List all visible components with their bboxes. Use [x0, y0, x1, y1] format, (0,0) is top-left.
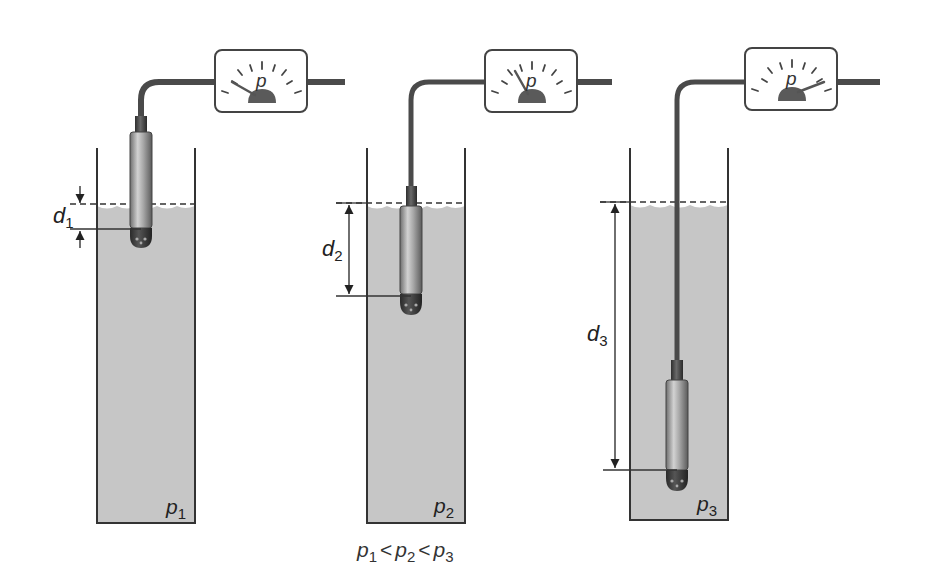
sensor-body-1	[130, 132, 152, 228]
pressure-depth-diagram: p p p d1 d2 d3 p1 p2 p3 p1<p2<p3	[0, 0, 942, 574]
liquid-1	[97, 206, 195, 523]
sensor-body-2	[400, 206, 422, 294]
depth-label-2: d2	[322, 238, 343, 263]
cable-1	[141, 82, 215, 118]
gauge-label-3: p	[786, 69, 797, 88]
sensor-collar-2	[406, 186, 417, 208]
sensor-collar-1	[135, 116, 147, 134]
diagram-canvas	[0, 0, 942, 574]
gauge-label-1: p	[256, 71, 267, 90]
setup-3	[600, 48, 880, 520]
sensor-tip-3	[666, 470, 688, 491]
depth-label-3: d3	[587, 323, 608, 348]
pressure-label-3: p3	[697, 493, 717, 518]
setup-1	[70, 50, 345, 523]
gauge-label-2: p	[526, 71, 537, 90]
pressure-label-1: p1	[166, 496, 186, 521]
setup-2	[336, 50, 612, 523]
sensor-collar-3	[671, 360, 683, 382]
cable-2	[411, 82, 485, 188]
depth-label-1: d1	[53, 205, 74, 230]
sensor-tip-1	[130, 228, 152, 248]
sensor-body-3	[666, 380, 688, 470]
pressure-comparison-caption: p1<p2<p3	[357, 538, 454, 565]
pressure-label-2: p2	[434, 495, 454, 520]
sensor-tip-2	[400, 294, 422, 315]
